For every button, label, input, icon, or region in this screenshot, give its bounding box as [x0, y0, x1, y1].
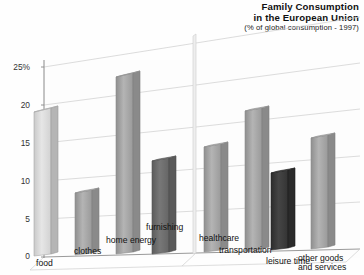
y-tick-label-25: 25%: [4, 62, 30, 72]
category-label-furnishing: furnishing: [146, 222, 183, 232]
category-label-food: food: [36, 258, 53, 268]
category-label-home-energy: home energy: [106, 235, 156, 245]
group-divider-wall: [193, 34, 196, 254]
bar-leisure-time[interactable]: [271, 168, 295, 250]
bar-clothes[interactable]: [75, 188, 99, 255]
y-tick-label-15: 15: [4, 138, 30, 148]
category-label-clothes: clothes: [74, 246, 101, 256]
y-tick-label-0: 0: [4, 251, 30, 261]
chart-container: Family Consumption in the European Union…: [0, 0, 364, 275]
bar-other-goods-and-services[interactable]: [311, 133, 335, 249]
plot-area: [0, 0, 364, 275]
category-label-other-goods-and-services: other goods and services: [298, 254, 360, 273]
bar-transportation[interactable]: [245, 106, 269, 251]
category-label-healthcare: healthcare: [199, 233, 239, 243]
bar-food[interactable]: [34, 106, 58, 256]
y-tick-label-20: 20: [4, 100, 30, 110]
bar-home-energy[interactable]: [116, 71, 140, 254]
y-tick-label-5: 5: [4, 214, 30, 224]
y-tick-label-10: 10: [4, 176, 30, 186]
category-label-transportation: transportation: [219, 245, 272, 255]
